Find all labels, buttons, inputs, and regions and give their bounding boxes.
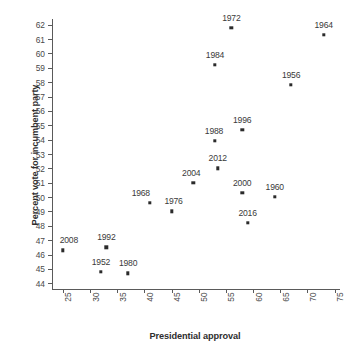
- x-tick-label: 25: [63, 292, 73, 301]
- y-tick: 56: [48, 111, 52, 112]
- y-tick: 47: [48, 240, 52, 241]
- y-tick-label: 57: [36, 92, 45, 102]
- data-point-label: 1992: [97, 232, 115, 242]
- y-tick-label: 55: [36, 121, 45, 131]
- data-point[interactable]: [216, 167, 219, 170]
- x-tick: 70: [307, 289, 308, 293]
- x-tick: 25: [63, 289, 64, 293]
- data-point-label: 1960: [266, 182, 284, 192]
- y-tick-label: 60: [36, 49, 45, 59]
- y-tick: 57: [48, 97, 52, 98]
- x-tick-label: 50: [199, 292, 209, 301]
- data-point-label: 1972: [222, 13, 240, 23]
- y-tick: 45: [48, 269, 52, 270]
- x-tick: 55: [226, 289, 227, 293]
- y-tick: 46: [48, 255, 52, 256]
- y-tick: 48: [48, 226, 52, 227]
- x-tick: 35: [117, 289, 118, 293]
- x-tick-label: 55: [226, 292, 236, 301]
- data-point-label: 1980: [119, 258, 137, 268]
- x-tick: 30: [90, 289, 91, 293]
- data-point-label: 1956: [282, 70, 300, 80]
- data-point-label: 2016: [238, 208, 256, 218]
- x-tick-label: 35: [118, 292, 128, 301]
- y-tick-label: 52: [36, 164, 45, 174]
- y-tick-label: 47: [36, 236, 45, 246]
- data-point-label: 2000: [233, 178, 251, 188]
- x-tick: 50: [199, 289, 200, 293]
- x-axis-title: Presidential approval: [45, 331, 345, 341]
- y-tick: 58: [48, 82, 52, 83]
- data-point[interactable]: [126, 271, 129, 274]
- y-tick-label: 49: [36, 207, 45, 217]
- data-point[interactable]: [170, 210, 173, 213]
- scatter-chart-figure: Percent vote for incumbent party 4445464…: [0, 0, 351, 348]
- plot-area: 44454647484950515253545556575859606162 2…: [52, 19, 340, 289]
- data-point-label: 1976: [164, 196, 182, 206]
- data-point-label: 1952: [92, 257, 110, 267]
- data-point-label: 1964: [315, 20, 333, 30]
- y-tick: 55: [48, 125, 52, 126]
- data-point-label: 2012: [209, 153, 227, 163]
- y-tick: 44: [48, 283, 52, 284]
- x-tick-label: 30: [91, 292, 101, 301]
- y-tick-label: 54: [36, 135, 45, 145]
- data-point[interactable]: [322, 33, 325, 36]
- y-tick-label: 62: [36, 20, 45, 30]
- y-tick: 52: [48, 168, 52, 169]
- y-tick-label: 44: [36, 279, 45, 289]
- y-tick: 53: [48, 154, 52, 155]
- data-point[interactable]: [148, 201, 151, 204]
- data-point[interactable]: [246, 221, 249, 224]
- x-tick-label: 45: [172, 292, 182, 301]
- y-tick: 61: [48, 39, 52, 40]
- x-tick: 45: [172, 289, 173, 293]
- data-point-label: 1984: [206, 50, 224, 60]
- y-tick: 60: [48, 53, 52, 54]
- data-point[interactable]: [240, 128, 243, 131]
- y-tick-label: 59: [36, 63, 45, 73]
- y-tick: 50: [48, 197, 52, 198]
- y-tick: 62: [48, 25, 52, 26]
- y-tick-label: 61: [36, 35, 45, 45]
- x-tick-label: 70: [308, 292, 318, 301]
- data-point[interactable]: [230, 26, 233, 29]
- x-tick-label: 40: [145, 292, 155, 301]
- data-point-label: 2004: [182, 168, 200, 178]
- data-point[interactable]: [273, 195, 276, 198]
- data-point[interactable]: [105, 246, 108, 249]
- y-tick-label: 46: [36, 250, 45, 260]
- data-point[interactable]: [99, 270, 102, 273]
- x-tick: 60: [253, 289, 254, 293]
- data-point-label: 1988: [205, 126, 223, 136]
- x-tick: 75: [335, 289, 336, 293]
- x-axis-spine: [52, 289, 340, 290]
- x-tick-label: 75: [335, 292, 345, 301]
- data-point-label: 1968: [132, 188, 150, 198]
- data-point[interactable]: [61, 249, 64, 252]
- x-tick: 65: [280, 289, 281, 293]
- data-point-label: 2008: [60, 235, 78, 245]
- data-point[interactable]: [240, 191, 243, 194]
- x-tick-label: 65: [281, 292, 291, 301]
- y-tick-label: 51: [36, 178, 45, 188]
- x-tick-label: 60: [254, 292, 264, 301]
- y-tick-label: 56: [36, 106, 45, 116]
- data-point[interactable]: [213, 139, 216, 142]
- y-tick: 54: [48, 140, 52, 141]
- y-tick-label: 58: [36, 78, 45, 88]
- data-point-label: 1996: [233, 115, 251, 125]
- x-tick: 40: [144, 289, 145, 293]
- y-axis-spine: [52, 19, 53, 289]
- y-tick-label: 45: [36, 264, 45, 274]
- data-point[interactable]: [192, 181, 195, 184]
- y-tick-label: 53: [36, 150, 45, 160]
- y-tick: 51: [48, 183, 52, 184]
- y-tick: 49: [48, 211, 52, 212]
- y-tick-label: 50: [36, 193, 45, 203]
- data-point[interactable]: [213, 63, 216, 66]
- y-tick-label: 48: [36, 221, 45, 231]
- y-tick: 59: [48, 68, 52, 69]
- data-point[interactable]: [289, 83, 292, 86]
